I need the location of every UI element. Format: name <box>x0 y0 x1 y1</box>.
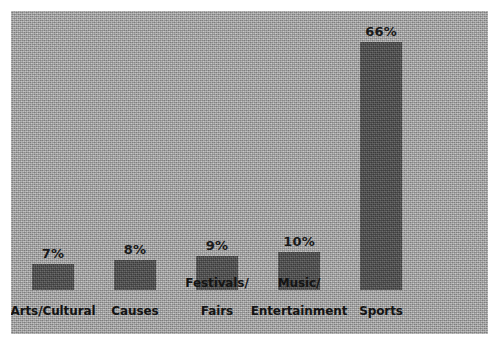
bar-category-label-line1: Arts/Cultural <box>11 304 96 318</box>
bar-value-label: 66% <box>340 25 422 39</box>
bar-category-label-line1: Sports <box>359 304 403 318</box>
bar-value-label: 7% <box>12 247 94 261</box>
bar-category-label-line1: Festivals/ <box>185 276 248 290</box>
bar-category-label-line1: Causes <box>111 304 158 318</box>
chart-plot-area: 7% Arts/Cultural 8% Causes 9% Festival <box>11 11 488 334</box>
bars-container: 7% Arts/Cultural 8% Causes 9% Festival <box>11 11 488 334</box>
bar-category-label-line2: Fairs <box>201 304 233 318</box>
bar-chart: 7% Arts/Cultural 8% Causes 9% Festival <box>0 0 496 345</box>
bar-value-label: 10% <box>258 235 340 249</box>
bar-arts-cultural[interactable] <box>32 264 74 290</box>
bar-value-label: 8% <box>94 243 176 257</box>
bar-sports[interactable] <box>360 42 402 290</box>
bar-category-label-line1: Music/ <box>278 276 321 290</box>
bar-value-label: 9% <box>176 239 258 253</box>
bar-causes[interactable] <box>114 260 156 290</box>
bar-category-label: Sports <box>331 290 431 318</box>
